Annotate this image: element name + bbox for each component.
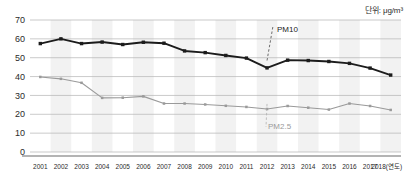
data-point <box>389 109 392 112</box>
x-axis-tick-label: 2016 <box>342 163 357 170</box>
data-point <box>204 103 207 106</box>
plot-band <box>133 20 154 152</box>
data-point <box>142 95 145 98</box>
data-point <box>286 105 289 108</box>
plot-band <box>92 20 113 152</box>
data-point <box>348 102 351 105</box>
x-axis-tick-label: 2009 <box>198 163 213 170</box>
data-point <box>60 78 63 81</box>
data-point <box>307 106 310 109</box>
data-point <box>224 54 227 57</box>
data-point <box>39 42 42 45</box>
annotation-label-pm10: PM10 <box>277 25 298 34</box>
x-axis-tick-label: 2003 <box>74 163 89 170</box>
data-point <box>183 102 186 105</box>
y-axis-tick-label: 10 <box>15 128 25 138</box>
plot-band <box>174 20 195 152</box>
data-point <box>369 105 372 108</box>
data-point <box>225 105 228 108</box>
plot-band <box>339 20 360 152</box>
data-point <box>203 51 206 54</box>
y-axis-tick-label: 30 <box>15 91 25 101</box>
y-axis-tick-label: 40 <box>15 72 25 82</box>
plot-band <box>380 20 401 152</box>
data-point <box>183 49 186 52</box>
data-point <box>245 56 248 59</box>
x-axis-tick-label: 2008 <box>177 163 192 170</box>
data-point <box>245 106 248 109</box>
x-axis-tick-label: 2004 <box>95 163 110 170</box>
x-axis-tick-label: 2014 <box>301 163 316 170</box>
data-point <box>327 60 330 63</box>
x-axis-tick-label: 2012 <box>260 163 275 170</box>
data-point <box>348 62 351 65</box>
x-axis-tick-label: 2015 <box>322 163 337 170</box>
x-axis-tick-label: 2002 <box>54 163 69 170</box>
plot-band <box>216 20 237 152</box>
data-point <box>39 76 42 79</box>
data-point <box>101 97 104 100</box>
x-axis-tick-label: 2007 <box>157 163 172 170</box>
data-point <box>122 96 125 99</box>
x-axis-tick-label: 2013 <box>280 163 295 170</box>
x-axis-tick-label: 2006 <box>136 163 151 170</box>
x-axis-labels: 2001200220032004200520062007200820092010… <box>33 163 402 171</box>
data-point <box>286 58 289 61</box>
annotation-label-pm25: PM2.5 <box>268 122 292 131</box>
y-axis-ticks: 010203040506070 <box>15 15 25 157</box>
x-axis-tick-label: 2011 <box>239 163 253 170</box>
line-chart-plot: 010203040506070 200120022003200420052006… <box>0 0 407 175</box>
y-axis-tick-label: 70 <box>15 15 25 25</box>
x-axis-tick-label: 2005 <box>116 163 131 170</box>
data-point <box>80 42 83 45</box>
data-point <box>389 73 392 76</box>
data-point <box>142 41 145 44</box>
data-point <box>80 82 83 85</box>
data-point <box>265 66 268 69</box>
plot-band <box>257 20 278 152</box>
data-point <box>100 40 103 43</box>
data-point <box>307 59 310 62</box>
data-point <box>368 66 371 69</box>
data-point <box>163 102 166 105</box>
plot-bands <box>51 20 401 152</box>
data-point <box>162 41 165 44</box>
x-axis-tick-label: 2001 <box>33 163 48 170</box>
x-axis-tick-label: 2010 <box>219 163 234 170</box>
x-axis-tick-label: 2018(연도) <box>371 163 402 171</box>
data-point <box>328 108 331 111</box>
plot-band <box>298 20 319 152</box>
y-axis-tick-label: 60 <box>15 34 25 44</box>
y-axis-tick-label: 20 <box>15 109 25 119</box>
data-point <box>59 37 62 40</box>
y-axis-tick-label: 50 <box>15 53 25 63</box>
chart-container: 단위: μg/m³ 010203040506070 20012002200320… <box>0 0 407 175</box>
data-point <box>121 43 124 46</box>
